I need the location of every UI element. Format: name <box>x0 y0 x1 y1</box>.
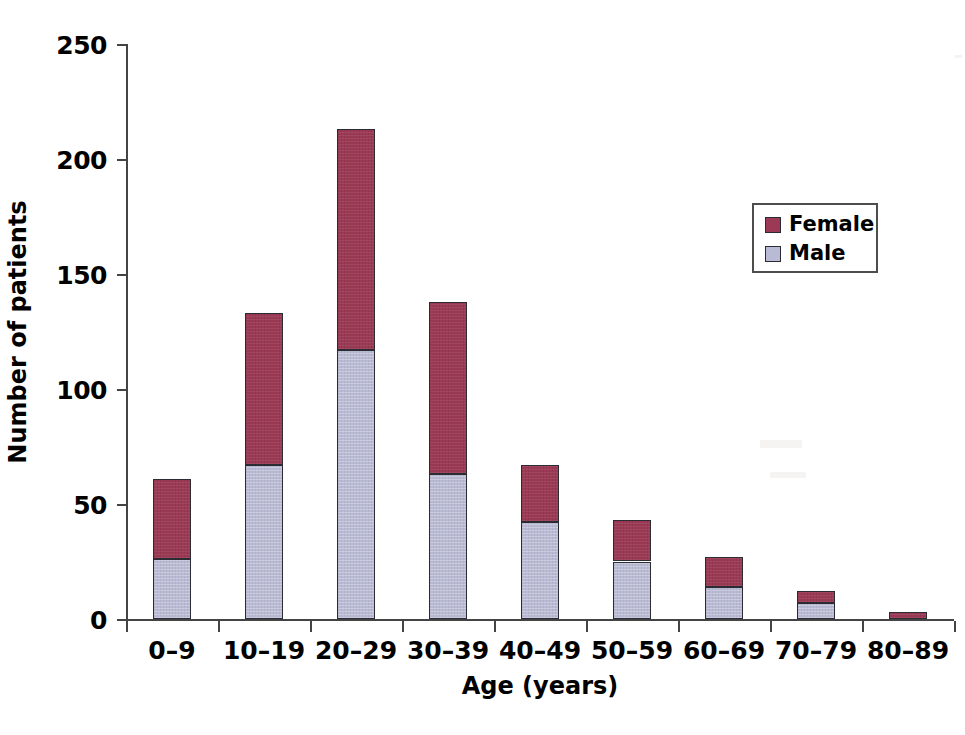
bar-segment-female-30–39 <box>429 302 467 475</box>
bar-segment-male-70–79 <box>797 603 835 619</box>
bar-group-30–39 <box>429 0 467 619</box>
bar-group-60–69 <box>705 0 743 619</box>
bar-segment-female-60–69 <box>705 557 743 587</box>
bar-group-70–79 <box>797 0 835 619</box>
bar-group-50–59 <box>613 0 651 619</box>
y-axis-title: Number of patients <box>4 200 32 463</box>
bar-group-10–19 <box>245 0 283 619</box>
bar-segment-male-60–69 <box>705 587 743 619</box>
bar-group-20–29 <box>337 0 375 619</box>
plot-area <box>0 0 965 735</box>
bar-segment-female-40–49 <box>521 465 559 523</box>
bar-segment-male-0–9 <box>153 559 191 619</box>
bar-segment-male-50–59 <box>613 562 651 620</box>
bar-group-40–49 <box>521 0 559 619</box>
bar-segment-female-50–59 <box>613 520 651 561</box>
bar-group-0–9 <box>153 0 191 619</box>
bar-segment-male-10–19 <box>245 465 283 619</box>
bar-segment-female-20–29 <box>337 129 375 350</box>
bar-segment-female-80–89 <box>889 612 927 619</box>
bar-segment-male-30–39 <box>429 474 467 619</box>
bar-segment-female-0–9 <box>153 479 191 560</box>
bar-group-80–89 <box>889 0 927 619</box>
legend: Female Male <box>752 203 878 273</box>
legend-label-male: Male <box>789 243 846 264</box>
chart-figure: 050100150200250 0–910–1920–2930–3940–495… <box>0 0 965 735</box>
legend-swatch-male-icon <box>765 246 781 262</box>
legend-label-female: Female <box>789 214 874 235</box>
bar-segment-female-10–19 <box>245 313 283 465</box>
bar-segment-male-40–49 <box>521 522 559 619</box>
bar-segment-female-70–79 <box>797 591 835 603</box>
legend-item-male: Male <box>765 239 876 268</box>
legend-swatch-female-icon <box>765 217 781 233</box>
bar-segment-male-20–29 <box>337 350 375 619</box>
legend-item-female: Female <box>765 210 876 239</box>
x-axis-title: Age (years) <box>462 672 619 700</box>
